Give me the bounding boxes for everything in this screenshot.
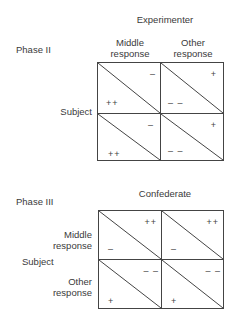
column-label-other-response: Other response xyxy=(162,37,224,59)
subject-payoff: – – xyxy=(168,99,184,108)
payoff-cell: ++ – xyxy=(99,211,161,259)
subject-payoff: – xyxy=(108,245,114,254)
column-label-line: Middle xyxy=(100,37,160,48)
column-label-line: response xyxy=(100,48,160,59)
payoff-cell: + – – xyxy=(161,114,223,160)
payoff-cell: – – + xyxy=(99,260,161,308)
payoff-grid-phase-2: – ++ + – – – ++ + – – xyxy=(97,62,224,161)
subject-payoff: – xyxy=(171,245,177,254)
confederate-payoff: ++ xyxy=(206,218,219,227)
phase-2-label: Phase II xyxy=(16,44,51,55)
payoff-cell: + – – xyxy=(161,63,223,113)
phase-3-label: Phase III xyxy=(16,196,54,207)
experimenter-payoff: + xyxy=(211,70,217,79)
confederate-payoff: – – xyxy=(143,267,159,276)
experimenter-payoff: – xyxy=(148,121,154,130)
confederate-payoff: – – xyxy=(205,267,221,276)
column-label-line: Other xyxy=(162,37,224,48)
subject-payoff: + xyxy=(171,297,177,306)
column-label-line: response xyxy=(162,48,224,59)
row-label-line: Middle xyxy=(40,229,92,240)
payoff-cell: – ++ xyxy=(98,63,160,113)
experimenter-payoff: + xyxy=(211,121,217,130)
payoff-cell: ++ – xyxy=(162,211,223,259)
experimenter-payoff: – xyxy=(150,70,156,79)
confederate-header: Confederate xyxy=(110,188,220,199)
row-label-middle-response: Middle response xyxy=(40,229,92,251)
experimenter-header: Experimenter xyxy=(110,14,220,25)
payoff-cell: – – + xyxy=(162,260,223,308)
subject-row-header: Subject xyxy=(22,256,54,267)
row-label-line: response xyxy=(40,287,92,298)
payoff-cell: – ++ xyxy=(98,114,160,160)
column-label-middle-response: Middle response xyxy=(100,37,160,59)
grid-divider xyxy=(99,259,223,260)
subject-payoff: ++ xyxy=(108,150,121,159)
payoff-grid-phase-3: ++ – ++ – – – + – – + xyxy=(98,210,224,309)
grid-divider xyxy=(160,63,161,160)
subject-payoff: – – xyxy=(168,147,184,156)
subject-payoff: ++ xyxy=(106,99,119,108)
row-label-other-response: Other response xyxy=(40,276,92,298)
row-label-line: Other xyxy=(40,276,92,287)
row-label-line: response xyxy=(40,240,92,251)
confederate-payoff: ++ xyxy=(144,218,157,227)
subject-row-header: Subject xyxy=(40,106,92,117)
grid-divider xyxy=(98,113,223,114)
subject-payoff: + xyxy=(108,297,114,306)
